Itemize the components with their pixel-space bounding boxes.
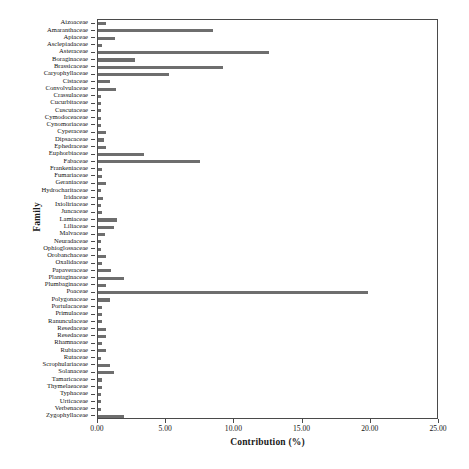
x-tick-mark — [302, 419, 303, 423]
bar — [98, 393, 101, 396]
bar — [98, 80, 110, 83]
bar — [98, 408, 101, 411]
y-tick-mark — [91, 66, 95, 67]
y-axis-tick-labels: AizoaceaeAmaranthaceaeApiaceaeAsclepiada… — [0, 19, 95, 419]
bar — [98, 342, 102, 345]
y-tick-mark — [91, 357, 95, 358]
y-tick-mark — [91, 132, 95, 133]
bar — [98, 226, 114, 229]
y-tick-label: Typhaceae — [60, 390, 88, 397]
bar — [98, 131, 106, 134]
y-tick-mark — [91, 30, 95, 31]
bar — [98, 255, 106, 258]
y-tick-mark — [91, 350, 95, 351]
bar — [98, 400, 101, 403]
bar — [98, 197, 103, 200]
bar — [98, 102, 101, 105]
bar — [98, 415, 124, 418]
y-tick-mark — [91, 23, 95, 24]
bar — [98, 269, 111, 272]
figure-caption — [18, 455, 218, 467]
y-tick-mark — [91, 364, 95, 365]
y-tick-mark — [91, 103, 95, 104]
bar — [98, 335, 106, 338]
y-tick-label: Zygophyllaceae — [46, 412, 88, 419]
bar — [98, 291, 368, 294]
bar — [98, 328, 106, 331]
bar — [98, 240, 101, 243]
bar — [98, 298, 110, 301]
x-tick-mark — [233, 419, 234, 423]
y-tick-mark — [91, 110, 95, 111]
y-tick-mark — [91, 154, 95, 155]
bar — [98, 124, 101, 127]
y-tick-mark — [91, 415, 95, 416]
x-tick-label: 15.00 — [293, 424, 310, 433]
y-tick-mark — [91, 146, 95, 147]
bar — [98, 204, 101, 207]
bar — [98, 88, 116, 91]
y-tick-label: Aizoaceae — [61, 19, 88, 26]
y-tick-mark — [91, 343, 95, 344]
bar — [98, 146, 106, 149]
bar — [98, 233, 105, 236]
bar — [98, 160, 200, 163]
y-tick-mark — [91, 284, 95, 285]
y-tick-label: Euphorbiaceae — [49, 150, 88, 157]
bar — [98, 153, 144, 156]
y-tick-mark — [91, 219, 95, 220]
y-tick-mark — [91, 394, 95, 395]
bar — [98, 357, 101, 360]
y-tick-mark — [91, 408, 95, 409]
bar-chart-figure: Family AizoaceaeAmaranthaceaeApiaceaeAsc… — [0, 0, 469, 469]
y-tick-mark — [91, 204, 95, 205]
bar — [98, 320, 102, 323]
bar — [98, 262, 102, 265]
y-tick-mark — [91, 95, 95, 96]
bar — [98, 44, 102, 47]
x-tick-mark — [165, 419, 166, 423]
y-tick-mark — [91, 379, 95, 380]
y-tick-mark — [91, 255, 95, 256]
y-tick-label: Primulaceae — [55, 310, 88, 317]
y-tick-label: Cucurbitaceae — [50, 99, 88, 106]
bar — [98, 175, 102, 178]
y-tick-mark — [91, 306, 95, 307]
bar — [98, 371, 114, 374]
bar — [98, 51, 269, 54]
y-tick-mark — [91, 124, 95, 125]
y-tick-label: Rhamnaceae — [54, 339, 88, 346]
bar — [98, 66, 223, 69]
bar — [98, 37, 115, 40]
y-tick-mark — [91, 328, 95, 329]
y-tick-mark — [91, 299, 95, 300]
x-tick-label: 10.00 — [225, 424, 242, 433]
bar — [98, 117, 101, 120]
bar — [98, 138, 104, 141]
bar — [98, 189, 101, 192]
bar — [98, 73, 169, 76]
bar — [98, 364, 110, 367]
y-tick-mark — [91, 314, 95, 315]
y-tick-mark — [91, 226, 95, 227]
bar — [98, 168, 102, 171]
y-tick-label: Caryophyllaceae — [44, 70, 88, 77]
bar — [98, 211, 102, 214]
y-tick-mark — [91, 168, 95, 169]
x-tick-mark — [97, 419, 98, 423]
x-tick-label: 20.00 — [361, 424, 378, 433]
bar — [98, 109, 101, 112]
y-tick-mark — [91, 183, 95, 184]
bar — [98, 277, 124, 280]
x-tick-label: 0.00 — [90, 424, 103, 433]
y-tick-mark — [91, 88, 95, 89]
x-axis-title: Contribution (%) — [97, 437, 438, 447]
y-tick-mark — [91, 277, 95, 278]
y-tick-mark — [91, 248, 95, 249]
x-tick-label: 25.00 — [429, 424, 446, 433]
y-tick-mark — [91, 270, 95, 271]
bar — [98, 306, 102, 309]
y-tick-mark — [91, 263, 95, 264]
y-tick-label: Geraniaceae — [55, 179, 88, 186]
bar — [98, 58, 135, 61]
